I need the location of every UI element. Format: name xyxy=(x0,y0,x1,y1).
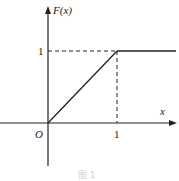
function-label: F(x) xyxy=(52,4,72,17)
y-tick-label: 1 xyxy=(38,45,44,57)
y-axis-arrow-icon xyxy=(45,6,51,14)
x-axis-arrow-icon xyxy=(169,120,177,126)
x-axis-label: x xyxy=(159,105,165,117)
origin-label: O xyxy=(35,128,43,140)
figure-caption: 图 1 xyxy=(78,170,96,180)
cdf-diagram: F(x) 1 x O 1 图 1 xyxy=(0,0,179,181)
x-tick-label: 1 xyxy=(114,128,120,140)
cdf-ramp-segment xyxy=(48,51,117,123)
